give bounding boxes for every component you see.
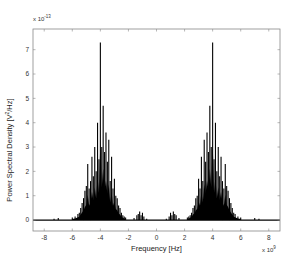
psd-spectrum-bars [54,42,259,220]
x-tick-label: -6 [69,234,75,241]
x-tick-label: -4 [97,234,103,241]
x-axis-ticks: -8-6-4-202468 [41,29,271,241]
y-tick-label: 6 [25,70,29,77]
plot-frame [33,29,280,231]
y-tick-label: 0 [25,216,29,223]
y-multiplier-label: x 10-13 [33,14,51,22]
x-axis-label: Frequency [Hz] [131,244,182,253]
x-tick-label: 2 [183,234,187,241]
y-axis-ticks: 01234567 [25,46,280,223]
y-tick-label: 1 [25,192,29,199]
x-tick-label: 6 [239,234,243,241]
y-tick-label: 3 [25,143,29,150]
y-tick-label: 4 [25,119,29,126]
x-tick-label: 0 [155,234,159,241]
x-multiplier-label: x 109 [262,245,276,253]
x-tick-label: -8 [41,234,47,241]
y-tick-label: 5 [25,95,29,102]
psd-chart: -8-6-4-202468 01234567 Frequency [Hz] Po… [0,0,296,265]
y-tick-label: 7 [25,46,29,53]
x-tick-label: 8 [267,234,271,241]
y-tick-label: 2 [25,168,29,175]
y-axis-label: Power Spectral Density [V2/Hz] [4,98,14,201]
x-tick-label: -2 [126,234,132,241]
x-tick-label: 4 [211,234,215,241]
